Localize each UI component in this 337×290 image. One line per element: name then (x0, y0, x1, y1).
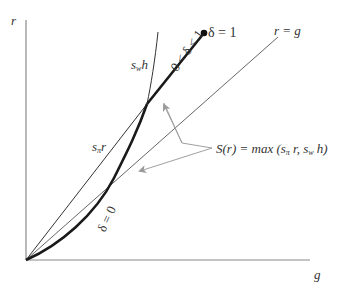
savings-part3: h) (314, 141, 328, 156)
savings-part2: r, s (290, 141, 308, 156)
annotation-leader (164, 103, 212, 148)
savings-function-label: S(r) = max (sπ r, sw h) (216, 142, 328, 157)
r-equals-g-label: r = g (274, 24, 301, 37)
delta-one-label: δ = 1 (208, 26, 237, 40)
arrow-to-lower (140, 148, 212, 171)
s-pi-r-label: sπr (92, 140, 106, 155)
y-axis-label: r (11, 14, 16, 27)
s-w-h-var: h (141, 57, 148, 72)
s-w-h-label: swh (131, 58, 148, 73)
x-axis-label: g (314, 268, 321, 281)
savings-part1: S(r) = max (s (216, 141, 286, 156)
s-pi-r-var: r (101, 139, 106, 154)
s-pi-r-line (26, 104, 147, 260)
